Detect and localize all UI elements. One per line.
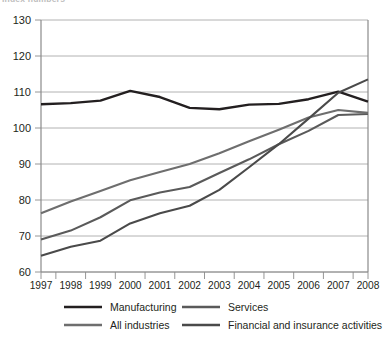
x-axis-tick-label: 1997 — [30, 280, 53, 291]
series-line-services — [41, 114, 368, 240]
legend-label-all-industries: All industries — [110, 319, 170, 331]
x-axis-tick-label: 2004 — [238, 280, 261, 291]
y-axis-tick-label: 70 — [19, 230, 31, 242]
legend-label-services: Services — [228, 301, 268, 313]
x-axis-tick-label: 2003 — [208, 280, 231, 291]
line-chart: 6070809010011012013019971998199920002001… — [0, 0, 392, 340]
chart-container: Index numbers 60708090100110120130199719… — [0, 0, 392, 340]
y-axis-tick-label: 120 — [13, 50, 31, 62]
legend-label-manufacturing: Manufacturing — [110, 301, 177, 313]
legend-label-financial-and-insurance-activities: Financial and insurance activities — [228, 319, 382, 331]
y-axis-tick-label: 130 — [13, 14, 31, 26]
x-axis-tick-label: 2000 — [119, 280, 142, 291]
y-axis-tick-label: 100 — [13, 122, 31, 134]
y-axis-tick-label: 90 — [19, 158, 31, 170]
y-axis-tick-label: 110 — [13, 86, 31, 98]
x-axis-tick-label: 2008 — [357, 280, 380, 291]
x-axis-tick-label: 1999 — [89, 280, 112, 291]
series-line-financial-and-insurance-activities — [41, 79, 368, 255]
y-axis-tick-label: 60 — [19, 266, 31, 278]
x-axis-tick-label: 1998 — [59, 280, 82, 291]
series-line-manufacturing — [41, 91, 368, 109]
x-axis-tick-label: 2006 — [297, 280, 320, 291]
x-axis-tick-label: 2007 — [327, 280, 350, 291]
y-axis-tick-label: 80 — [19, 194, 31, 206]
x-axis-tick-label: 2005 — [267, 280, 290, 291]
x-axis-tick-label: 2002 — [178, 280, 201, 291]
x-axis-tick-label: 2001 — [149, 280, 172, 291]
